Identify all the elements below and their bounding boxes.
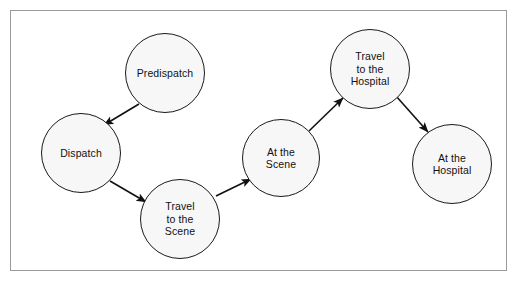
edge-at-the-scene-travel-to-the-hospital [309, 98, 343, 131]
node-label-at-the-scene: At the Scene [262, 146, 300, 171]
edge-dispatch-travel-to-the-scene [110, 181, 146, 202]
node-label-travel-to-the-hospital: Travel to the Hospital [347, 50, 394, 88]
node-label-dispatch: Dispatch [56, 147, 106, 160]
node-dispatch[interactable]: Dispatch [41, 113, 121, 193]
diagram-root: PredispatchDispatchTravel to the SceneAt… [0, 0, 518, 285]
node-label-predispatch: Predispatch [133, 67, 198, 80]
node-travel-to-the-hospital[interactable]: Travel to the Hospital [330, 29, 410, 109]
node-predispatch[interactable]: Predispatch [125, 33, 205, 113]
node-at-the-scene[interactable]: At the Scene [242, 119, 320, 197]
node-travel-to-the-scene[interactable]: Travel to the Scene [140, 179, 220, 259]
edge-predispatch-dispatch [104, 104, 139, 125]
edge-travel-to-the-hospital-at-the-hospital [396, 96, 428, 132]
node-label-at-the-hospital: At the Hospital [429, 152, 476, 177]
node-at-the-hospital[interactable]: At the Hospital [412, 124, 492, 204]
edge-travel-to-the-scene-at-the-scene [216, 179, 251, 196]
node-label-travel-to-the-scene: Travel to the Scene [161, 200, 199, 238]
